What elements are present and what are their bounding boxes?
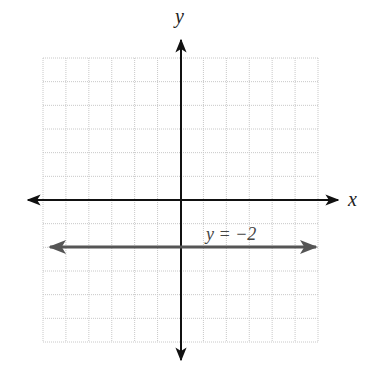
y-axis-label: y [173,5,184,28]
x-axis-label: x [347,188,357,210]
line-label: y = −2 [204,224,256,244]
coordinate-plane: x y y = −2 [0,0,375,374]
